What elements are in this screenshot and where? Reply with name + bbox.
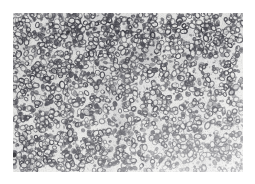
micrograph-image [13,13,243,172]
micrograph-canvas [13,13,243,172]
plate-root [0,0,255,184]
